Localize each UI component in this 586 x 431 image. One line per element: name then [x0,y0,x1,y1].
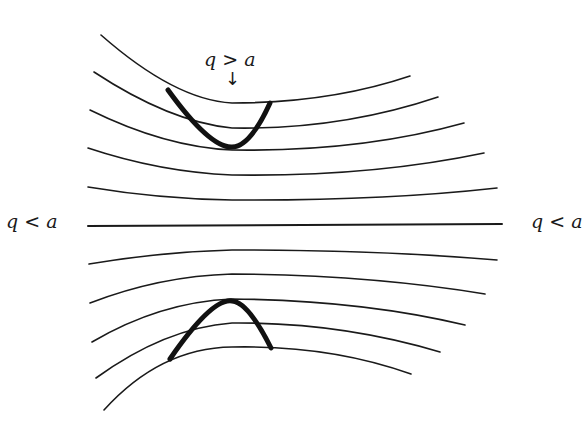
upper-flow-line-1 [101,35,410,103]
center-flow-line [88,224,502,226]
center-flow-line [88,224,502,226]
upper-flow-line-4 [88,148,484,175]
upper-flow-line-5 [88,187,497,200]
label-top-q-greater-a: q > a [204,50,256,69]
lower-flow-line-1 [89,250,497,264]
lower-flow-lines [89,250,497,410]
label-right-q-less-a: q < a [531,212,583,231]
label-left-q-less-a: q < a [6,212,58,231]
bold-trajectory-lower [170,301,271,359]
lower-flow-line-2 [90,274,485,303]
upper-flow-lines [88,35,497,200]
lower-flow-line-5 [104,347,411,410]
lower-flow-line-3 [92,299,465,342]
upper-flow-line-2 [94,72,438,128]
lower-flow-line-4 [96,323,440,378]
bold-trajectory-upper [168,90,270,147]
down-arrow-icon: ↓ [225,70,240,88]
flow-diagram [0,0,586,431]
upper-flow-line-3 [90,110,464,150]
